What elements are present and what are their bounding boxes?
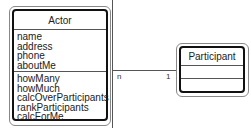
attribute: aboutMe <box>17 61 106 71</box>
association-line[interactable] <box>112 70 178 71</box>
actor-methods: howMany howMuch calcOverParticipants ran… <box>14 72 106 123</box>
participant-class[interactable]: Participant <box>179 46 245 93</box>
actor-attributes: name address phone aboutMe <box>14 30 106 72</box>
participant-class-name: Participant <box>181 48 243 66</box>
method: calcForMe <box>17 112 106 122</box>
participant-attributes <box>181 66 243 79</box>
vertical-guide-line <box>112 0 113 128</box>
actor-class-name: Actor <box>14 11 106 30</box>
participant-multiplicity: 1 <box>166 72 170 81</box>
actor-class[interactable]: Actor name address phone aboutMe howMany… <box>12 9 108 121</box>
actor-multiplicity: n <box>117 72 121 81</box>
